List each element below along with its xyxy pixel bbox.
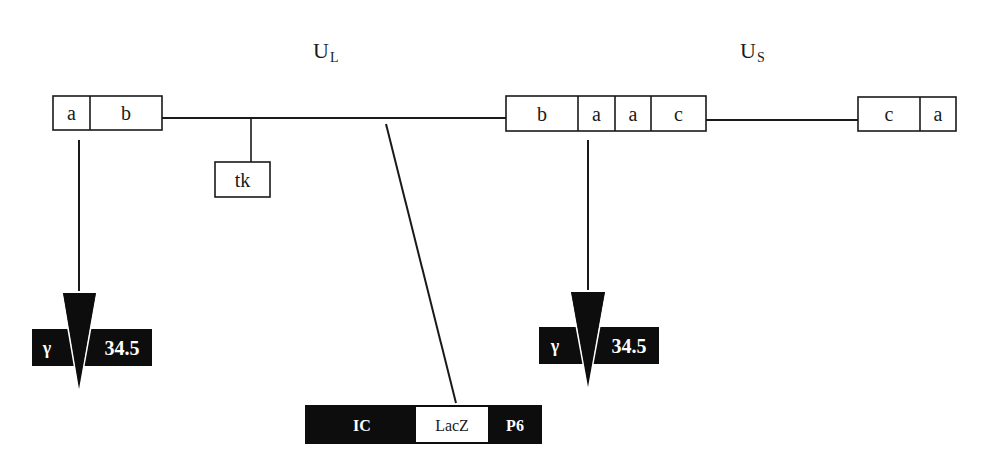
reporter-cassette: IC LacZ P6 xyxy=(305,405,542,444)
right-repeat-box: c a xyxy=(858,97,956,131)
svg-text:S: S xyxy=(757,50,765,65)
segment-a: a xyxy=(934,103,943,125)
segment-c: c xyxy=(885,103,894,125)
reporter-label: LacZ xyxy=(435,417,469,434)
svg-text:L: L xyxy=(330,50,339,65)
gamma-insertion-right: γ 34.5 xyxy=(539,140,659,389)
region-label-us: U S xyxy=(740,38,765,65)
segment-b: b xyxy=(121,102,131,124)
promoter-label: IC xyxy=(353,417,371,434)
tk-label: tk xyxy=(235,169,251,191)
insertion-pointer-line xyxy=(386,124,456,403)
polya-label: P6 xyxy=(506,417,524,434)
left-repeat-box: a b xyxy=(53,96,162,130)
hsv-genome-diagram: U L U S a b b a a c c a tk xyxy=(0,0,988,470)
tk-gene: tk xyxy=(215,118,270,197)
gamma-insertion-left: γ 34.5 xyxy=(32,140,152,391)
segment-c: c xyxy=(674,103,683,125)
segment-a: a xyxy=(592,103,601,125)
segment-a: a xyxy=(629,103,638,125)
segment-b: b xyxy=(537,103,547,125)
segment-a: a xyxy=(67,102,76,124)
gene-suffix: 34.5 xyxy=(105,337,140,359)
svg-text:U: U xyxy=(740,38,756,63)
region-label-ul: U L xyxy=(313,38,339,65)
gene-prefix: γ xyxy=(42,338,52,358)
gene-prefix: γ xyxy=(550,336,560,356)
internal-repeat-box: b a a c xyxy=(506,96,706,131)
gene-suffix: 34.5 xyxy=(612,335,647,357)
svg-text:U: U xyxy=(313,38,329,63)
